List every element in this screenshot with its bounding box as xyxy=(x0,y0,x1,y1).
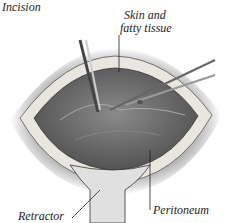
retractor xyxy=(70,165,150,223)
label-peritoneum: Peritoneum xyxy=(153,204,209,217)
label-retractor: Retractor xyxy=(18,210,64,223)
label-incision: Incision xyxy=(2,1,41,14)
label-skin-line2: fatty tissue xyxy=(120,22,172,35)
surgical-illustration xyxy=(0,0,225,223)
